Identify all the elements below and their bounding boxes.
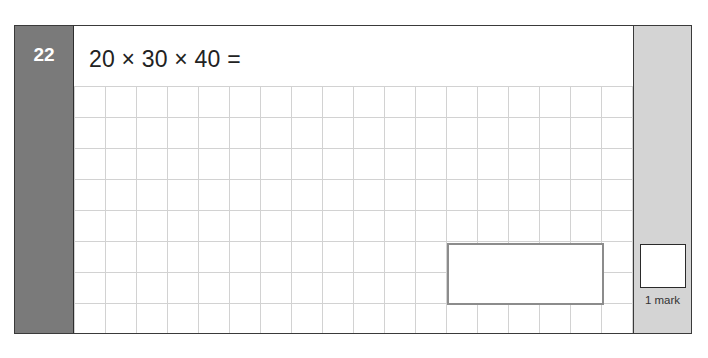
mark-label: 1 mark: [634, 294, 691, 306]
answer-box[interactable]: [447, 243, 604, 305]
mark-box[interactable]: [640, 244, 686, 288]
bottom-border: [14, 333, 692, 334]
question-number: 22: [15, 44, 73, 66]
question-number-column: 22: [14, 25, 74, 334]
question-text: 20 × 30 × 40 =: [89, 46, 241, 73]
mark-column: 1 mark: [633, 25, 692, 334]
